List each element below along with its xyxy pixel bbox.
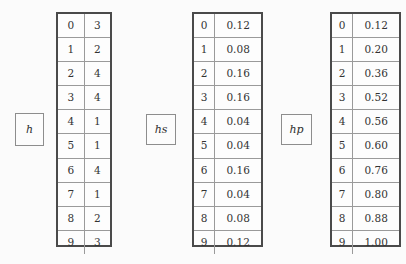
cell-index: 9 bbox=[332, 230, 353, 254]
table-row: 12 bbox=[58, 38, 110, 62]
cell-index: 3 bbox=[58, 86, 84, 110]
cell-index: 8 bbox=[332, 206, 353, 230]
table-row: 03 bbox=[58, 14, 110, 38]
cell-value: 3 bbox=[84, 230, 110, 254]
label-text-h: h bbox=[26, 123, 33, 136]
cell-index: 9 bbox=[58, 230, 84, 254]
table-row: 70.80 bbox=[332, 182, 399, 206]
cell-index: 3 bbox=[332, 86, 353, 110]
table-hs-body: 00.1210.0820.1630.1640.0450.0460.1670.04… bbox=[194, 14, 261, 254]
table-hs: 00.1210.0820.1630.1640.0450.0460.1670.04… bbox=[192, 12, 263, 247]
table-row: 50.60 bbox=[332, 134, 399, 158]
table-row: 60.76 bbox=[332, 158, 399, 182]
cell-index: 8 bbox=[58, 206, 84, 230]
table-hp-body: 00.1210.2020.3630.5240.5650.6060.7670.80… bbox=[332, 14, 399, 254]
cell-index: 6 bbox=[194, 158, 215, 182]
cell-index: 7 bbox=[194, 182, 215, 206]
table-hp: 00.1210.2020.3630.5240.5650.6060.7670.80… bbox=[330, 12, 401, 247]
table-row: 82 bbox=[58, 206, 110, 230]
table-row: 34 bbox=[58, 86, 110, 110]
table-row: 20.36 bbox=[332, 62, 399, 86]
table-row: 24 bbox=[58, 62, 110, 86]
table-row: 80.08 bbox=[194, 206, 261, 230]
cell-value: 1 bbox=[84, 110, 110, 134]
table-h-grid: 03122434415164718293 bbox=[58, 14, 110, 254]
cell-value: 0.16 bbox=[215, 158, 261, 182]
cell-value: 0.12 bbox=[215, 230, 261, 254]
cell-value: 0.08 bbox=[215, 38, 261, 62]
table-hs-grid: 00.1210.0820.1630.1640.0450.0460.1670.04… bbox=[194, 14, 261, 254]
cell-value: 0.16 bbox=[215, 86, 261, 110]
cell-index: 9 bbox=[194, 230, 215, 254]
table-row: 80.88 bbox=[332, 206, 399, 230]
cell-value: 0.88 bbox=[353, 206, 399, 230]
cell-value: 3 bbox=[84, 14, 110, 38]
cell-index: 2 bbox=[194, 62, 215, 86]
cell-index: 6 bbox=[332, 158, 353, 182]
cell-index: 3 bbox=[194, 86, 215, 110]
cell-value: 0.04 bbox=[215, 134, 261, 158]
table-row: 10.20 bbox=[332, 38, 399, 62]
table-h-body: 03122434415164718293 bbox=[58, 14, 110, 254]
table-row: 40.04 bbox=[194, 110, 261, 134]
label-text-hp: hp bbox=[289, 123, 303, 136]
cell-index: 8 bbox=[194, 206, 215, 230]
table-hp-grid: 00.1210.2020.3630.5240.5650.6060.7670.80… bbox=[332, 14, 399, 254]
table-row: 60.16 bbox=[194, 158, 261, 182]
table-row: 10.08 bbox=[194, 38, 261, 62]
cell-index: 4 bbox=[332, 110, 353, 134]
table-row: 00.12 bbox=[194, 14, 261, 38]
table-row: 30.16 bbox=[194, 86, 261, 110]
cell-value: 0.36 bbox=[353, 62, 399, 86]
cell-value: 0.04 bbox=[215, 110, 261, 134]
cell-index: 5 bbox=[332, 134, 353, 158]
cell-index: 5 bbox=[194, 134, 215, 158]
cell-value: 0.04 bbox=[215, 182, 261, 206]
figure-canvas: h hs hp 03122434415164718293 00.1210.082… bbox=[0, 0, 406, 264]
cell-index: 7 bbox=[58, 182, 84, 206]
table-row: 91.00 bbox=[332, 230, 399, 254]
cell-value: 0.16 bbox=[215, 62, 261, 86]
cell-index: 4 bbox=[58, 110, 84, 134]
cell-value: 1 bbox=[84, 182, 110, 206]
cell-index: 7 bbox=[332, 182, 353, 206]
table-row: 41 bbox=[58, 110, 110, 134]
table-row: 93 bbox=[58, 230, 110, 254]
cell-value: 0.12 bbox=[215, 14, 261, 38]
cell-index: 1 bbox=[194, 38, 215, 62]
cell-value: 0.60 bbox=[353, 134, 399, 158]
cell-index: 5 bbox=[58, 134, 84, 158]
table-row: 30.52 bbox=[332, 86, 399, 110]
cell-value: 2 bbox=[84, 38, 110, 62]
table-row: 00.12 bbox=[332, 14, 399, 38]
cell-value: 4 bbox=[84, 62, 110, 86]
cell-value: 2 bbox=[84, 206, 110, 230]
label-box-h: h bbox=[15, 113, 44, 146]
cell-index: 0 bbox=[58, 14, 84, 38]
table-row: 40.56 bbox=[332, 110, 399, 134]
cell-value: 0.20 bbox=[353, 38, 399, 62]
cell-value: 0.56 bbox=[353, 110, 399, 134]
cell-value: 1.00 bbox=[353, 230, 399, 254]
table-row: 71 bbox=[58, 182, 110, 206]
table-row: 64 bbox=[58, 158, 110, 182]
cell-index: 1 bbox=[332, 38, 353, 62]
label-box-hp: hp bbox=[281, 114, 312, 145]
cell-value: 0.12 bbox=[353, 14, 399, 38]
cell-index: 0 bbox=[332, 14, 353, 38]
table-row: 90.12 bbox=[194, 230, 261, 254]
cell-index: 6 bbox=[58, 158, 84, 182]
cell-value: 4 bbox=[84, 86, 110, 110]
cell-index: 2 bbox=[332, 62, 353, 86]
cell-value: 0.52 bbox=[353, 86, 399, 110]
label-box-hs: hs bbox=[146, 114, 176, 145]
table-row: 51 bbox=[58, 134, 110, 158]
table-row: 50.04 bbox=[194, 134, 261, 158]
cell-index: 4 bbox=[194, 110, 215, 134]
cell-value: 0.08 bbox=[215, 206, 261, 230]
cell-index: 2 bbox=[58, 62, 84, 86]
cell-index: 0 bbox=[194, 14, 215, 38]
table-row: 20.16 bbox=[194, 62, 261, 86]
cell-value: 4 bbox=[84, 158, 110, 182]
table-h: 03122434415164718293 bbox=[56, 12, 112, 247]
